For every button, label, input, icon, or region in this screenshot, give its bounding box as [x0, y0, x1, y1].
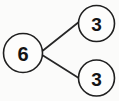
number-bond-diagram: 6 3 3	[0, 0, 119, 101]
part-top-node-value: 3	[91, 14, 102, 35]
part-bottom-node-value: 3	[91, 69, 102, 90]
whole-node-value: 6	[17, 43, 28, 65]
link-whole-to-part-bottom	[43, 56, 80, 79]
link-whole-to-part-top	[43, 22, 80, 51]
number-bond-canvas: 6 3 3	[0, 0, 119, 101]
